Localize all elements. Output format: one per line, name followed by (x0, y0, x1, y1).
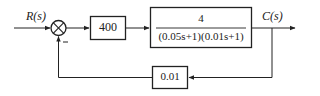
summing-junction (51, 21, 66, 36)
input-label: R(s) (26, 9, 46, 24)
feedback-block-label: 0.01 (152, 70, 188, 82)
plant-denominator: (0.05s+1)(0.01s+1) (150, 30, 252, 42)
gain-block-400-label: 400 (90, 20, 126, 35)
output-label: C(s) (262, 9, 283, 24)
plant-numerator: 4 (150, 12, 252, 24)
feedback-return-line (59, 37, 153, 78)
